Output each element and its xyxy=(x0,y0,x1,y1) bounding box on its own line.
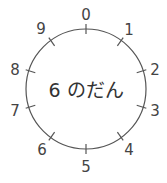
label-0: 0 xyxy=(81,6,91,24)
times-table-circle-diagram: 0 1 2 3 4 5 6 7 8 9 6 のだん xyxy=(0,0,167,183)
tick-8 xyxy=(26,70,36,73)
tick-2 xyxy=(137,70,147,73)
label-1: 1 xyxy=(124,21,134,39)
label-2: 2 xyxy=(150,61,160,79)
tick-7 xyxy=(26,105,36,108)
label-5: 5 xyxy=(81,158,91,176)
label-4: 4 xyxy=(124,141,134,159)
label-3: 3 xyxy=(150,102,160,120)
label-7: 7 xyxy=(10,102,20,120)
label-6: 6 xyxy=(37,141,47,159)
center-title: 6 のだん xyxy=(48,79,123,101)
tick-3 xyxy=(137,105,147,108)
label-8: 8 xyxy=(10,61,20,79)
label-9: 9 xyxy=(36,20,46,38)
